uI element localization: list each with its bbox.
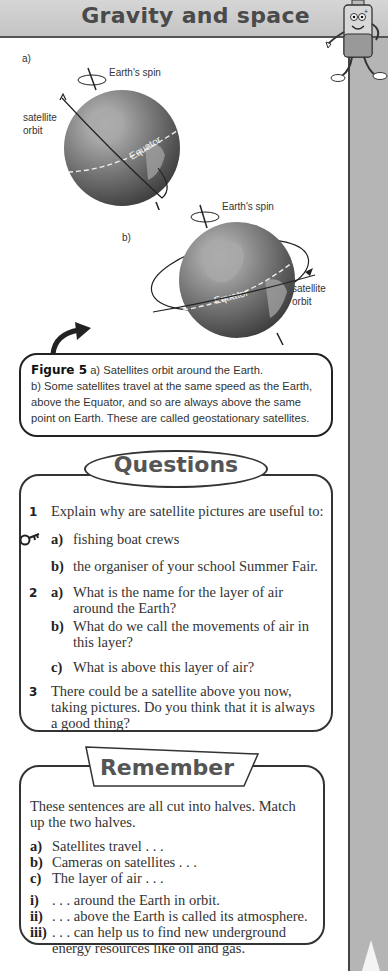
remember-intro-2: up the two halves. <box>30 814 136 831</box>
question-3-number: 3 <box>29 685 37 699</box>
question-1-number: 1 <box>29 505 37 519</box>
question-2-number: 2 <box>29 586 37 600</box>
remember-start-a-text: Satellites travel . . . <box>52 838 164 855</box>
remember-start-b-text: Cameras on satellites . . . <box>52 854 197 871</box>
figure-a-label: a) <box>22 53 31 64</box>
battery-mascot-icon: + <box>324 0 388 90</box>
remember-end-ii-text: . . . above the Earth is called its atmo… <box>52 908 308 925</box>
remember-end-iii-letter: iii) <box>30 924 47 941</box>
question-2b-text-2: this layer? <box>73 634 133 651</box>
question-3-text-3: a good thing? <box>51 715 130 732</box>
caption-line-3: above the Equator, and so are always abo… <box>31 394 321 410</box>
question-2b-text-1: What do we call the movements of air in <box>73 618 309 635</box>
remember-end-iii-text-2: energy resources like oil and gas. <box>52 940 245 957</box>
remember-end-i-text: . . . around the Earth in orbit. <box>52 892 220 909</box>
page-title: Gravity and space <box>0 3 330 28</box>
question-2b-letter: b) <box>51 618 64 635</box>
page-corner-triangle-icon <box>362 940 380 971</box>
question-2c-letter: c) <box>51 659 62 676</box>
earth-globe-a: Equator <box>50 60 190 210</box>
question-2a-text-1: What is the name for the layer of air <box>73 584 283 601</box>
key-icon <box>19 532 41 546</box>
remember-title: Remember <box>92 755 242 780</box>
question-1a-text: fishing boat crews <box>73 531 179 548</box>
question-3-text-2: taking pictures. Do you think that it is… <box>51 699 315 716</box>
question-1-text: Explain why are satellite pictures are u… <box>51 503 324 520</box>
question-1b-text: the organiser of your school Summer Fair… <box>73 558 318 575</box>
remember-end-iii-text-1: . . . can help us to find new undergroun… <box>52 924 286 941</box>
remember-end-ii-letter: ii) <box>30 908 43 925</box>
remember-start-a-letter: a) <box>30 838 42 855</box>
remember-start-c-text: The layer of air . . . <box>52 870 164 887</box>
remember-end-i-letter: i) <box>30 892 39 909</box>
question-2a-text-2: around the Earth? <box>73 600 176 617</box>
figure-number: Figure 5 <box>31 363 87 377</box>
figure-a-orbit-label-2: orbit <box>23 125 42 137</box>
curved-arrow-icon <box>45 322 95 356</box>
question-2c-text: What is above this layer of air? <box>73 659 254 676</box>
question-1b-letter: b) <box>51 558 64 575</box>
svg-text:+: + <box>364 8 368 15</box>
question-3-text-1: There could be a satellite above you now… <box>51 683 292 700</box>
caption-line-4: point on Earth. These are called geostat… <box>31 410 321 426</box>
figure-caption: Figure 5 a) Satellites orbit around the … <box>19 353 333 437</box>
earth-globe-b: Equator <box>125 200 335 345</box>
remember-intro-1: These sentences are all cut into halves.… <box>30 798 296 815</box>
remember-start-c-letter: c) <box>30 870 41 887</box>
question-2a-letter: a) <box>51 584 63 601</box>
side-strip <box>348 38 388 971</box>
questions-title: Questions <box>84 452 268 477</box>
caption-line-1: a) Satellites orbit around the Earth. <box>87 364 263 376</box>
remember-start-b-letter: b) <box>30 854 43 871</box>
question-1a-letter: a) <box>51 531 63 548</box>
caption-line-2: b) Some satellites travel at the same sp… <box>31 378 321 394</box>
